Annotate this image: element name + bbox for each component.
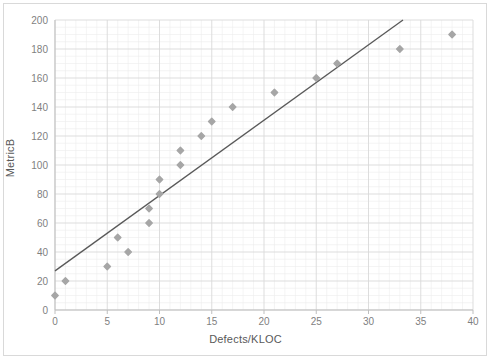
y-tick-label: 100 — [31, 160, 48, 171]
y-tick-label: 120 — [31, 131, 48, 142]
y-tick-label: 40 — [37, 247, 49, 258]
y-tick-label: 0 — [42, 305, 48, 316]
y-tick-label: 160 — [31, 73, 48, 84]
x-tick-label: 40 — [467, 316, 479, 327]
x-tick-label: 35 — [415, 316, 427, 327]
x-tick-label: 15 — [206, 316, 218, 327]
scatter-chart: 0510152025303540020406080100120140160180… — [0, 0, 491, 364]
y-tick-label: 80 — [37, 189, 49, 200]
y-tick-label: 140 — [31, 102, 48, 113]
x-tick-label: 5 — [104, 316, 110, 327]
y-tick-label: 180 — [31, 44, 48, 55]
plot-area: 0510152025303540020406080100120140160180… — [0, 0, 491, 364]
x-tick-label: 10 — [154, 316, 166, 327]
y-tick-label: 60 — [37, 218, 49, 229]
x-tick-label: 0 — [52, 316, 58, 327]
y-tick-label: 20 — [37, 276, 49, 287]
y-axis-title: MetricB — [4, 128, 16, 188]
x-tick-label: 20 — [258, 316, 270, 327]
y-tick-label: 200 — [31, 15, 48, 26]
x-tick-label: 30 — [363, 316, 375, 327]
x-axis-title: Defects/KLOC — [0, 333, 491, 345]
x-tick-label: 25 — [311, 316, 323, 327]
